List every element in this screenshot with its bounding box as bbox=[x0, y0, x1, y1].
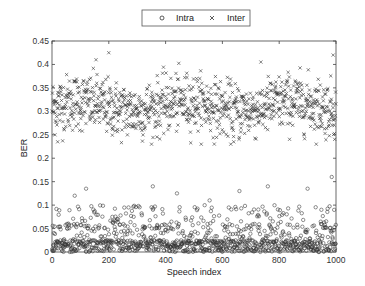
plot-area bbox=[52, 41, 336, 252]
legend-label-inter: Inter bbox=[227, 13, 245, 23]
y-tick-label: 0.4 bbox=[37, 59, 49, 69]
y-tick-label: 0.2 bbox=[37, 153, 49, 163]
legend: Intra Inter bbox=[142, 10, 250, 26]
y-tick-label: 0.05 bbox=[32, 224, 49, 234]
x-tick-label: 0 bbox=[50, 255, 55, 265]
y-tick-label: 0.45 bbox=[32, 36, 49, 46]
x-tick-label: 400 bbox=[159, 255, 173, 265]
y-tick-label: 0 bbox=[44, 247, 49, 257]
data-points bbox=[50, 51, 337, 254]
y-tick-label: 0.35 bbox=[32, 83, 49, 93]
x-tick-label: 200 bbox=[102, 255, 116, 265]
y-axis-label: BER bbox=[19, 138, 29, 157]
axis-ticks: 0200400600800100000.050.10.150.20.250.30… bbox=[32, 36, 345, 265]
y-tick-label: 0.1 bbox=[37, 200, 49, 210]
x-tick-label: 800 bbox=[272, 255, 286, 265]
y-tick-label: 0.25 bbox=[32, 130, 49, 140]
y-tick-label: 0.3 bbox=[37, 106, 49, 116]
x-tick-label: 1000 bbox=[327, 255, 346, 265]
x-axis-label: Speech index bbox=[167, 267, 222, 277]
scatter-chart: Intra Inter 0200400600800100000.050.10.1… bbox=[0, 0, 365, 286]
y-tick-label: 0.15 bbox=[32, 177, 49, 187]
legend-label-intra: Intra bbox=[176, 13, 194, 23]
x-tick-label: 600 bbox=[215, 255, 229, 265]
